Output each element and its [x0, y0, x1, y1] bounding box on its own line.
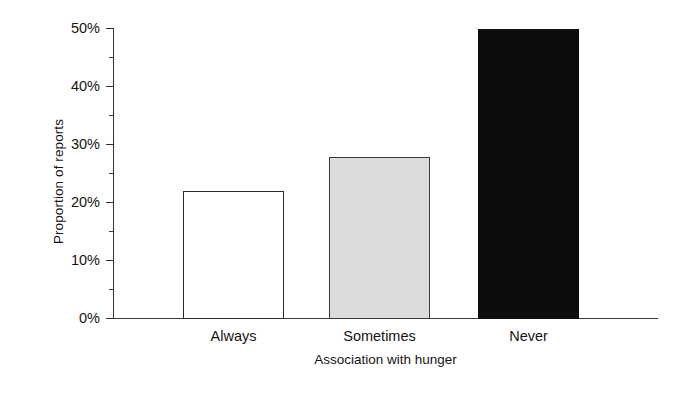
y-axis-minor-tick: [109, 289, 113, 290]
y-axis-tick-label: 10%: [44, 252, 100, 268]
x-axis-category-label: Never: [478, 328, 579, 344]
y-axis-major-tick: [106, 318, 113, 319]
y-axis-minor-tick: [109, 57, 113, 58]
y-axis-line: [113, 28, 114, 318]
y-axis-major-tick: [106, 144, 113, 145]
y-axis-tick-labels: 0%10%20%30%40%50%: [44, 0, 100, 397]
bar-sometimes: [329, 157, 430, 319]
bar-chart-figure: Proportion of reports 0%10%20%30%40%50% …: [0, 0, 684, 397]
x-axis-label: Association with hunger: [113, 352, 658, 367]
y-axis-minor-tick: [109, 231, 113, 232]
y-axis-tick-label: 40%: [44, 78, 100, 94]
y-axis-tick-label: 50%: [44, 20, 100, 36]
y-axis-minor-tick: [109, 115, 113, 116]
y-axis-tick-label: 20%: [44, 194, 100, 210]
y-axis-major-tick: [106, 260, 113, 261]
x-axis-category-label: Sometimes: [329, 328, 430, 344]
plot-area: AlwaysSometimesNever: [113, 28, 658, 320]
y-axis-minor-tick: [109, 173, 113, 174]
bar-always: [183, 191, 284, 319]
y-axis-major-tick: [106, 86, 113, 87]
bar-never: [478, 29, 579, 319]
y-axis-tick-label: 0%: [44, 310, 100, 326]
y-axis-tick-label: 30%: [44, 136, 100, 152]
x-axis-category-label: Always: [183, 328, 284, 344]
y-axis-major-tick: [106, 28, 113, 29]
y-axis-major-tick: [106, 202, 113, 203]
